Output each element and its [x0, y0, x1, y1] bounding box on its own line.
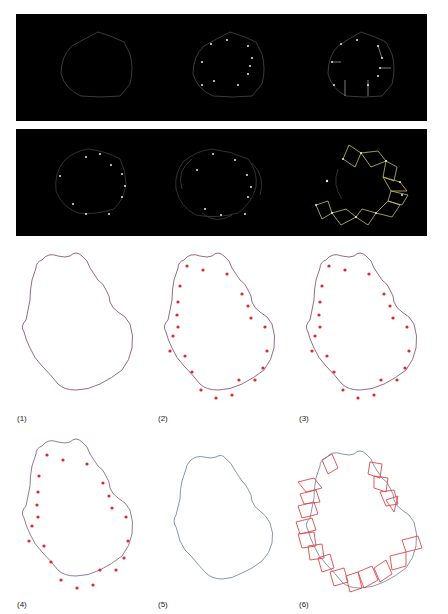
panel-5	[166, 455, 286, 595]
panel-3-outline	[298, 250, 433, 420]
panel-label-2: (2)	[158, 414, 168, 423]
panel-2-outline	[156, 250, 291, 420]
panel-4	[14, 438, 149, 598]
panel-1-outline	[14, 250, 149, 420]
top-strip-2	[16, 129, 427, 236]
panel-label-1: (1)	[17, 414, 27, 423]
panel-2	[156, 250, 291, 420]
strip-1-drawing	[16, 14, 427, 121]
panel-4-outline	[14, 438, 149, 598]
panel-5-outline	[166, 455, 286, 595]
panel-6	[294, 448, 444, 603]
panel-label-6: (6)	[299, 600, 309, 609]
panel-label-3: (3)	[299, 414, 309, 423]
panel-6-outline	[294, 448, 444, 603]
panel-1	[14, 250, 149, 420]
panel-label-5: (5)	[158, 600, 168, 609]
panel-label-4: (4)	[17, 600, 27, 609]
top-strip-1	[16, 14, 427, 121]
panel-3	[298, 250, 433, 420]
strip-2-drawing	[16, 129, 427, 236]
